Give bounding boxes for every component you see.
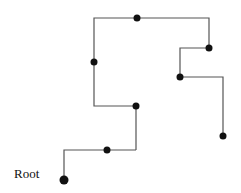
tree-diagram: Root [0, 0, 241, 193]
edges [64, 18, 223, 180]
tree-node [104, 147, 111, 154]
root-node [60, 176, 69, 185]
tree-node [91, 59, 98, 66]
root-label: Root [14, 166, 40, 181]
tree-node [177, 74, 184, 81]
edge [180, 77, 223, 136]
edge [64, 150, 136, 180]
leaf-node [220, 133, 227, 140]
nodes [60, 15, 227, 185]
tree-node [206, 45, 213, 52]
tree-node [133, 103, 140, 110]
tree-node [134, 15, 141, 22]
edge [94, 18, 209, 150]
edge [180, 48, 209, 77]
